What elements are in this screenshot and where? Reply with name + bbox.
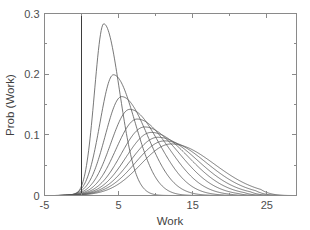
x-tick-label: -5 xyxy=(40,199,50,211)
y-tick-label: 0.3 xyxy=(24,8,39,20)
curve-3 xyxy=(45,97,297,196)
curve-6 xyxy=(45,127,297,196)
y-axis-title: Prob (Work) xyxy=(4,74,16,136)
axis-frame-group xyxy=(45,14,297,196)
x-tick-label: 5 xyxy=(116,199,122,211)
axis-frame xyxy=(45,14,297,196)
y-tick-label: 0.1 xyxy=(24,129,39,141)
x-tick-label: 15 xyxy=(187,199,199,211)
x-tick-labels: -551525 xyxy=(40,199,273,211)
x-tick-label: 25 xyxy=(261,199,273,211)
curve-2 xyxy=(45,75,297,196)
y-tick-labels: 00.10.20.3 xyxy=(24,8,39,202)
curve-8 xyxy=(45,137,297,195)
y-tick-label: 0 xyxy=(33,190,39,202)
work-distribution-figure: -551525 00.10.20.3 Work Prob (Work) xyxy=(0,0,310,230)
plot-canvas: -551525 00.10.20.3 Work Prob (Work) xyxy=(0,0,310,230)
axis-ticks-group xyxy=(45,14,297,196)
curve-7 xyxy=(45,132,297,195)
x-axis-title: Work xyxy=(157,215,184,227)
plot-curves xyxy=(45,24,297,196)
curve-1 xyxy=(45,24,297,196)
y-tick-label: 0.2 xyxy=(24,68,39,80)
